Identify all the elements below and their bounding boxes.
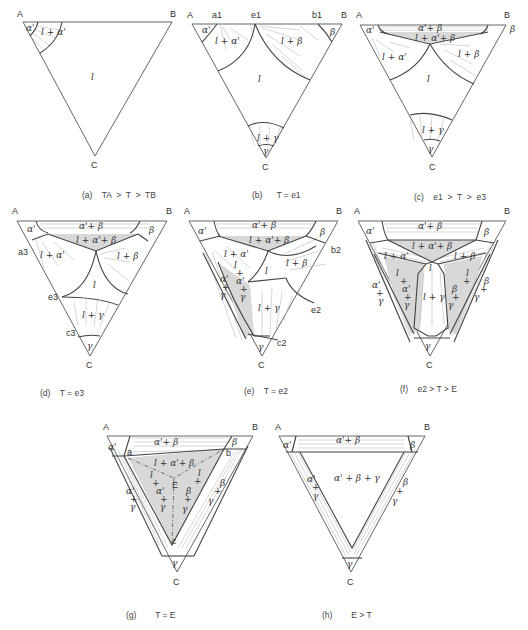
- vertex-B: B: [504, 10, 510, 20]
- caption-g: (g) T = E: [126, 610, 176, 620]
- point-c: c: [172, 536, 177, 546]
- plus-sign: +: [463, 276, 471, 286]
- region-gamma: γ: [258, 342, 264, 352]
- point-c2: c2: [277, 338, 287, 348]
- caption-a: (a) TA > T > TB: [82, 190, 156, 200]
- region-gamma: γ: [172, 558, 178, 568]
- region-l-gamma: l + γ: [422, 125, 444, 135]
- region-l-alpha-beta: l + α'+ β: [415, 33, 455, 43]
- region-l-alpha-gamma-gamma: γ: [160, 502, 166, 512]
- region-l-beta: l + β: [454, 251, 475, 261]
- region-l-alpha-gamma-gamma: γ: [404, 300, 410, 310]
- vertex-C: C: [347, 577, 354, 587]
- region-l-alpha: l + α': [382, 52, 407, 62]
- region-beta: β: [483, 227, 489, 237]
- point-a1: a1: [212, 10, 222, 20]
- boundary-liquidus-beta: [255, 24, 310, 80]
- region-alpha-beta: α'+ β: [336, 435, 360, 445]
- region-alpha-beta: α'+ β: [79, 221, 103, 231]
- caption-b: (b) T = e1: [252, 190, 301, 200]
- region-alpha-beta: α'+ β: [252, 220, 276, 230]
- region-l-beta: l + β: [458, 49, 479, 59]
- plus-sign: +: [194, 476, 202, 486]
- vertex-B: B: [341, 10, 347, 20]
- region-l-alpha-beta: l + α'+ β: [249, 235, 289, 245]
- region-gamma: γ: [87, 341, 93, 351]
- region-l-gamma: l + γ: [257, 133, 279, 143]
- region-l: l: [429, 263, 432, 273]
- vertex-A: A: [17, 9, 23, 19]
- vertex-A: A: [12, 206, 18, 216]
- region-beta-gamma-gamma: γ: [392, 496, 398, 506]
- region-alpha-gamma-gamma: γ: [220, 290, 226, 300]
- point-b: b: [226, 448, 231, 458]
- region-l: l: [265, 266, 268, 276]
- region-gamma: γ: [425, 341, 431, 351]
- point-e2: e2: [311, 305, 321, 315]
- caption-e: (e) T = e2: [244, 386, 288, 396]
- region-l-beta: l + β: [117, 251, 138, 261]
- panel-b: A B C a1 e1 b1 α' l + α' l + β β l l + γ…: [187, 10, 347, 172]
- region-alpha: α': [202, 25, 211, 35]
- region-gamma: γ: [428, 144, 434, 154]
- vertex-B: B: [170, 9, 176, 19]
- boundary-liquidus-alpha: [218, 24, 255, 71]
- region-beta: β: [409, 440, 415, 450]
- vertex-A: A: [275, 422, 281, 432]
- caption-c: (c) e1 > T > e3: [414, 192, 486, 202]
- region-alpha: α': [198, 226, 207, 236]
- point-a3: a3: [18, 247, 28, 257]
- phase-diagram-figure: A B C α' l + α' l A B C a1 e1 b1 α' l + …: [0, 0, 528, 630]
- region-l-gamma: l + γ: [82, 310, 104, 320]
- region-alpha-beta: α'+ β: [154, 437, 178, 447]
- vertex-B: B: [504, 206, 510, 216]
- region-alpha: α': [27, 224, 36, 234]
- region-alpha-beta: α'+ β: [418, 221, 442, 231]
- region-l-alpha: l + α': [40, 250, 65, 260]
- plus-sign: +: [396, 486, 404, 496]
- vertex-A: A: [356, 10, 362, 20]
- vertex-C: C: [258, 360, 265, 370]
- region-l-alpha-gamma-gamma: γ: [240, 292, 246, 302]
- region-alpha-gamma-gamma: γ: [378, 296, 384, 306]
- region-l-alpha: l + α': [224, 249, 249, 259]
- vertex-C: C: [91, 160, 98, 170]
- boundary-to-e2: [286, 278, 314, 303]
- region-beta: β: [509, 24, 515, 34]
- vertex-A: A: [354, 206, 360, 216]
- region-l-beta: l + β: [286, 258, 307, 268]
- region-alpha: α': [108, 442, 117, 452]
- region-alpha: α': [26, 23, 35, 33]
- region-beta: β: [319, 227, 325, 237]
- region-l: l: [91, 72, 94, 82]
- point-E: E: [172, 480, 178, 490]
- region-l: l: [93, 280, 96, 290]
- point-a: a: [127, 447, 132, 457]
- caption-d: (d) T = e3: [40, 388, 84, 398]
- vertex-C: C: [262, 162, 269, 172]
- region-l-alpha: l + α': [215, 36, 240, 46]
- boundary-to-e3: [62, 251, 96, 297]
- caption-f: (f) e2 > T > E: [400, 384, 457, 394]
- region-alpha: α': [366, 226, 375, 236]
- vertex-A: A: [187, 10, 193, 20]
- plus-sign: +: [480, 284, 488, 294]
- vertex-B: B: [336, 206, 342, 216]
- region-l-beta-gamma-gamma: γ: [448, 300, 454, 310]
- region-gamma: γ: [263, 146, 269, 156]
- vertex-B: B: [166, 206, 172, 216]
- region-l-alpha: l + α': [384, 251, 409, 261]
- region-l-gamma: l + γ: [423, 292, 445, 302]
- region-l-alpha-gamma-l: l: [396, 268, 399, 278]
- point-e1: e1: [251, 10, 261, 20]
- vertex-A: A: [103, 422, 109, 432]
- point-b1: b1: [312, 10, 322, 20]
- region-gamma: γ: [347, 559, 353, 569]
- plus-sign: +: [184, 494, 192, 504]
- triangle-a: [23, 22, 172, 156]
- triangle-h: [279, 436, 425, 572]
- region-beta-gamma-gamma: γ: [208, 496, 214, 506]
- panel-h: A B C α' α'+ β β α' + β + γ α' + γ β + γ…: [275, 422, 430, 587]
- panel-a: A B C α' l + α' l: [17, 9, 176, 170]
- region-alpha-beta: α'+ β: [418, 23, 442, 33]
